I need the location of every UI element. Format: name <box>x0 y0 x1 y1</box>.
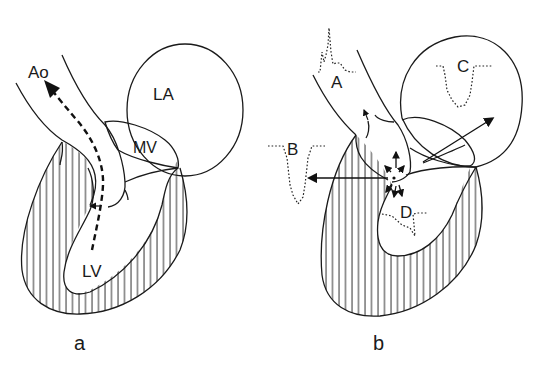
arrow-to-c <box>423 120 490 162</box>
panel-b: A B C D b <box>268 28 522 354</box>
label-lv: LV <box>82 262 102 281</box>
left-atrium <box>127 44 243 176</box>
mv-leaflet-b <box>406 167 476 175</box>
panel-b-caption: b <box>373 332 384 354</box>
label-d: D <box>400 203 412 222</box>
panel-a-caption: a <box>74 332 86 354</box>
label-la: LA <box>153 85 174 104</box>
label-c: C <box>457 57 469 76</box>
panel-a: Ao LA MV LV a <box>16 44 243 354</box>
label-mv: MV <box>133 139 157 156</box>
heart-diagram: Ao LA MV LV a <box>0 0 536 365</box>
label-a: A <box>331 73 343 92</box>
label-b: B <box>287 140 298 159</box>
mitral-valve-b <box>402 118 475 166</box>
label-ao: Ao <box>28 63 49 82</box>
